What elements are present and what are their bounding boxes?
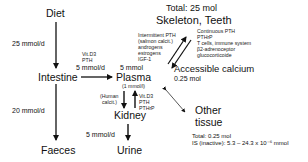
skeleton-total: Total: 25 mol: [166, 4, 217, 13]
flow-intestine-faeces: 20 mmol/d: [12, 107, 45, 114]
flow-plasma-pool: 5 mmol: [120, 64, 143, 71]
node-faeces: Faeces: [41, 145, 75, 156]
node-accessible-calcium: Accessible calcium: [174, 64, 254, 74]
arrow-plasma-other: [166, 90, 185, 112]
plasma-concentration: (1 mmol/l): [122, 83, 145, 89]
flow-diet-intestine: 25 mmol/d: [12, 40, 45, 47]
reg-plasma-kidney-2: calcit.): [102, 99, 117, 105]
flow-intestine-plasma: 5 mmol/d: [76, 64, 105, 71]
other-is: IS (inactive): 5.3 – 24.3 x 10⁻⁶ mmol: [192, 140, 289, 146]
node-other-tissue-2: tissue: [195, 117, 222, 128]
node-skeleton: Skeleton, Teeth: [156, 15, 232, 26]
node-urine: Urine: [117, 145, 142, 156]
node-kidney: Kidney: [114, 110, 146, 121]
other-total: Total: 0.25 mol: [192, 133, 231, 139]
accessible-amount: 0.25 mol: [174, 75, 201, 82]
node-plasma: Plasma: [116, 72, 151, 83]
flow-kidney-urine: 5 mmol/d: [86, 131, 115, 138]
reg-resorption-5: glucocorticoide: [197, 52, 232, 58]
reg-intestine-2: PTH: [82, 57, 92, 63]
reg-formation-5: IGF-1: [138, 56, 151, 62]
node-diet: Diet: [46, 8, 65, 19]
node-intestine: Intestine: [38, 72, 78, 83]
node-other-tissue-1: Other: [195, 105, 221, 116]
